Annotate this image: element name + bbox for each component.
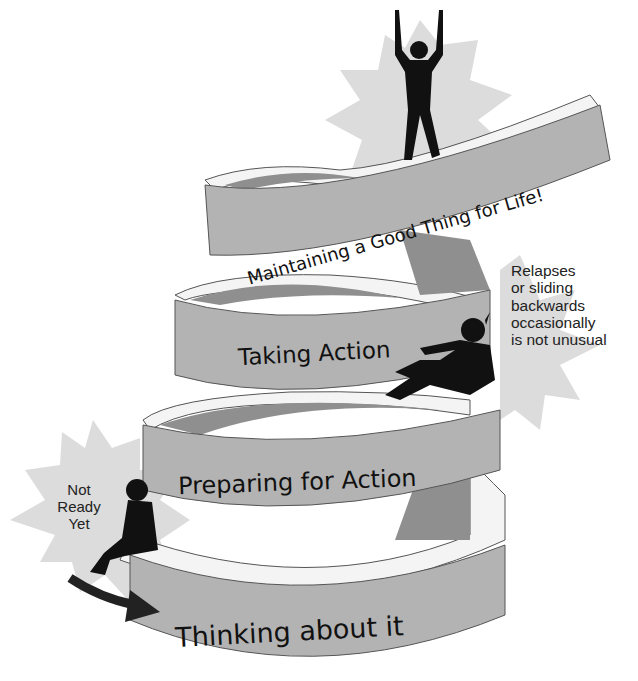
not-ready-line-3: Yet	[54, 516, 104, 533]
relapse-line-2: or sliding	[511, 279, 607, 296]
relapse-line-5: is not unusual	[511, 331, 607, 348]
not-ready-line-2: Ready	[54, 499, 104, 516]
relapse-line-1: Relapses	[511, 262, 607, 279]
relapse-line-4: occasionally	[511, 314, 607, 331]
relapse-line-3: backwards	[511, 297, 607, 314]
not-ready-line-1: Not	[54, 482, 104, 499]
relapse-note: Relapses or sliding backwards occasional…	[511, 262, 607, 349]
not-ready-note: Not Ready Yet	[54, 482, 104, 532]
